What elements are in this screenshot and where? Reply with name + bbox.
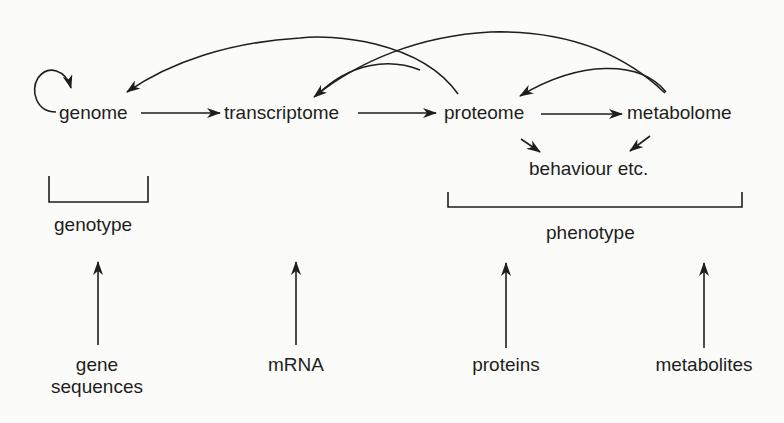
proteome-to-transcriptome-arc xyxy=(316,64,420,96)
metabolome-to-behaviour-arrow xyxy=(630,136,650,151)
node-transcriptome: transcriptome xyxy=(224,102,339,124)
genotype-bracket xyxy=(49,176,148,202)
input-mrna: mRNA xyxy=(268,354,324,376)
input-metabolites: metabolites xyxy=(655,354,752,376)
group-genotype: genotype xyxy=(54,214,132,236)
omics-diagram: genome transcriptome proteome metabolome… xyxy=(0,0,784,423)
input-gene-sequences: gene sequences xyxy=(51,354,143,398)
proteome-to-behaviour-arrow xyxy=(521,139,540,152)
group-phenotype: phenotype xyxy=(546,222,635,244)
metabolome-to-proteome-arc xyxy=(520,68,666,96)
phenotype-bracket xyxy=(448,192,742,207)
node-metabolome: metabolome xyxy=(627,102,732,124)
node-proteome: proteome xyxy=(444,102,524,124)
node-behaviour: behaviour etc. xyxy=(529,158,648,180)
node-genome: genome xyxy=(59,102,128,124)
input-proteins: proteins xyxy=(472,354,540,376)
